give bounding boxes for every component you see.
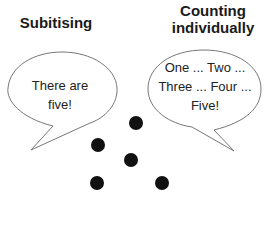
right-bubble-line-3: Five! — [146, 96, 264, 115]
dot-2 — [91, 138, 105, 152]
left-bubble-text: There are five! — [20, 76, 100, 114]
left-bubble-line-1: There are — [20, 76, 100, 95]
dot-4 — [90, 176, 104, 190]
right-bubble-text: One ... Two ... Three ... Four ... Five! — [146, 58, 264, 115]
right-bubble-line-2: Three ... Four ... — [146, 77, 264, 96]
left-bubble-line-2: five! — [20, 95, 100, 114]
dot-5 — [155, 176, 169, 190]
right-bubble-line-1: One ... Two ... — [146, 58, 264, 77]
dot-3 — [124, 153, 138, 167]
dot-1 — [129, 116, 143, 130]
